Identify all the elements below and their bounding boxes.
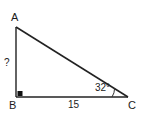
angle-label-c: 32° (95, 83, 110, 93)
segment-ac-hypotenuse (16, 27, 128, 97)
vertex-label-c: C (128, 100, 136, 111)
triangle-drawing-canvas (0, 0, 142, 114)
side-label-bc-length: 15 (68, 100, 79, 110)
side-label-ab-unknown: ? (4, 58, 10, 68)
vertex-label-b: B (9, 100, 16, 111)
right-angle-marker-icon (18, 91, 23, 96)
geometry-figure: A B C ? 15 32° (0, 0, 142, 114)
angle-arc-c-icon (112, 88, 115, 97)
vertex-label-a: A (11, 12, 18, 23)
